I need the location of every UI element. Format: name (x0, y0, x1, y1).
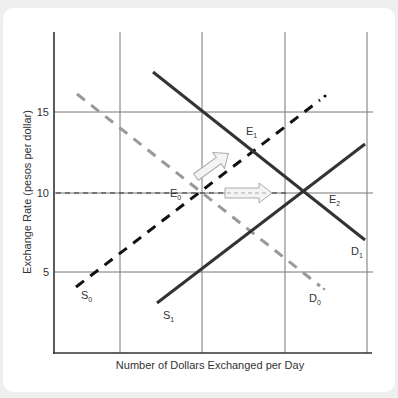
e1-label: E1 (246, 125, 257, 139)
d0-label: D0 (309, 292, 321, 306)
e0-label: E0 (170, 187, 181, 201)
s1-label: S1 (163, 309, 174, 323)
arrow-e0-to-e1-icon (190, 145, 234, 185)
x-axis-label: Number of Dollars Exchanged per Day (116, 359, 305, 371)
y-tick-15: 15 (37, 106, 49, 118)
y-tick-5: 5 (43, 266, 49, 278)
arrow-e0-to-e2-icon (225, 183, 272, 203)
e2-label: E2 (329, 193, 340, 207)
y-tick-10: 10 (37, 187, 49, 199)
d0-curve (77, 94, 320, 286)
d1-curve (153, 72, 365, 240)
d1-label: D1 (351, 245, 363, 259)
y-axis-label: Exchange Rate (pesos per dollar) (21, 110, 33, 274)
exchange-rate-chart: 15 10 5 Number of Dollars Exchanged per … (0, 0, 398, 398)
s1-curve (157, 144, 365, 303)
s0-label: S0 (81, 289, 92, 303)
